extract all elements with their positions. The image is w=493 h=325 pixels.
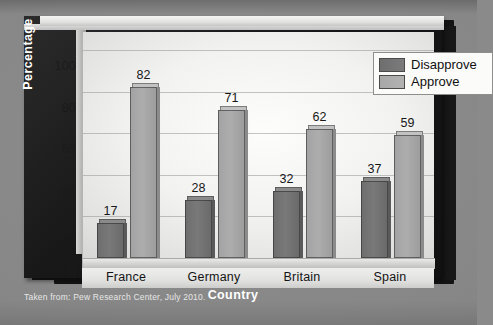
legend-swatch-icon xyxy=(379,75,405,89)
bar-top-face xyxy=(308,125,335,129)
bar-side-face xyxy=(300,191,303,258)
x-category-label: France xyxy=(82,270,170,284)
y-tick-label: 20 xyxy=(62,225,76,239)
bar-side-face xyxy=(388,181,391,258)
bar-top-face xyxy=(363,177,390,181)
bar-face xyxy=(185,200,212,258)
bar-value-label: 37 xyxy=(368,162,382,176)
chart-3d-block: Percentage 0 20 40 60 80 100 17822871326… xyxy=(24,6,449,284)
bar-side-face xyxy=(124,223,127,258)
bar-top-face xyxy=(187,196,214,200)
bar-face xyxy=(130,87,157,258)
y-tick-label: 60 xyxy=(62,142,76,156)
legend-item-approve: Approve xyxy=(379,73,488,90)
chart-legend: Disapprove Approve xyxy=(373,52,493,95)
bar-face xyxy=(218,110,245,258)
bar-germany-approve xyxy=(218,110,245,258)
bar-face xyxy=(97,223,124,258)
bar-germany-disapprove xyxy=(185,200,212,258)
x-axis-category-band: FranceGermanyBritainSpain xyxy=(82,268,434,288)
y-tick-label: 0 xyxy=(69,267,76,281)
bar-face xyxy=(273,191,300,258)
bar-face xyxy=(306,129,333,258)
bar-value-label: 17 xyxy=(104,204,118,218)
y-tick-label: 80 xyxy=(62,101,76,115)
bar-france-disapprove xyxy=(97,223,124,258)
bar-top-face xyxy=(275,187,302,191)
bar-top-face xyxy=(396,131,423,135)
bar-spain-approve xyxy=(394,135,421,258)
y-tick-label: 40 xyxy=(62,184,76,198)
bar-side-face xyxy=(212,200,215,258)
plot-area: 1782287132623759 Disapprove Approve xyxy=(82,32,434,268)
x-category-label: Germany xyxy=(170,270,258,284)
bar-value-label: 59 xyxy=(401,116,415,130)
bar-top-face xyxy=(99,219,126,223)
bar-britain-approve xyxy=(306,129,333,258)
bar-value-label: 32 xyxy=(280,172,294,186)
chart-frame-top-lip-inner xyxy=(40,16,444,26)
bar-spain-disapprove xyxy=(361,181,388,258)
bar-value-label: 62 xyxy=(313,110,327,124)
bar-side-face xyxy=(333,129,336,258)
bar-value-label: 28 xyxy=(192,181,206,195)
bar-side-face xyxy=(421,135,424,258)
source-caption: Taken from: Pew Research Center, July 20… xyxy=(24,292,206,302)
bar-face xyxy=(394,135,421,258)
bar-france-approve xyxy=(130,87,157,258)
bar-top-face xyxy=(220,106,247,110)
bar-side-face xyxy=(157,87,160,258)
y-axis-tick-labels: 0 20 40 60 80 100 xyxy=(30,32,76,245)
x-category-label: Britain xyxy=(258,270,346,284)
x-category-label: Spain xyxy=(346,270,434,284)
chart-dark-frame: Percentage 0 20 40 60 80 100 17822871326… xyxy=(24,16,442,278)
bar-top-face xyxy=(132,83,159,87)
legend-swatch-icon xyxy=(379,58,405,72)
bar-value-label: 71 xyxy=(225,91,239,105)
legend-label: Disapprove xyxy=(411,58,477,71)
y-tick-label: 100 xyxy=(55,59,76,73)
bar-value-label: 82 xyxy=(137,68,151,82)
legend-item-disapprove: Disapprove xyxy=(379,56,488,73)
legend-label: Approve xyxy=(411,75,459,88)
bar-face xyxy=(361,181,388,258)
bar-britain-disapprove xyxy=(273,191,300,258)
bar-side-face xyxy=(245,110,248,258)
